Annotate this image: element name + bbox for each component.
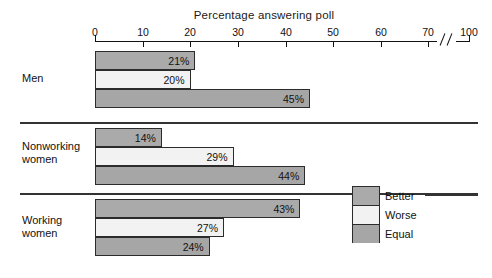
axis-tick-label: 40 [280, 26, 292, 38]
bar-value-label: 44% [278, 170, 299, 182]
category-label: Working women [22, 214, 62, 240]
legend [352, 186, 380, 243]
legend-swatch [353, 187, 379, 206]
axis-tick [286, 41, 287, 47]
bar-value-label: 43% [273, 203, 294, 215]
axis-tick [428, 41, 429, 47]
bar: 43% [95, 199, 300, 218]
bar: 44% [95, 166, 305, 185]
bar: 14% [95, 128, 162, 147]
axis-tick-label: 60 [375, 26, 387, 38]
bar-value-label: 20% [164, 74, 185, 86]
chart-title: Percentage answering poll [0, 9, 492, 21]
axis-tick-label: 30 [232, 26, 244, 38]
axis-tick-label: 100 [460, 26, 478, 38]
bar: 45% [95, 89, 310, 108]
bar-value-label: 21% [168, 55, 189, 67]
legend-swatch [353, 205, 379, 224]
axis-tick-label: 0 [92, 26, 98, 38]
bar: 29% [95, 147, 234, 166]
legend-connector-rule [425, 194, 478, 196]
axis-tick-label: 20 [184, 26, 196, 38]
axis-tick-label: 10 [137, 26, 149, 38]
axis-tick-label: 50 [327, 26, 339, 38]
bar: 27% [95, 218, 224, 237]
bar-value-label: 14% [135, 132, 156, 144]
axis-tick [238, 41, 239, 47]
bar-value-label: 24% [183, 241, 204, 253]
axis-tick [143, 41, 144, 47]
bar: 24% [95, 237, 210, 256]
axis-tick [333, 41, 334, 47]
category-label: Men [22, 72, 43, 85]
axis-tick-label: 70 [422, 26, 434, 38]
legend-label: Worse [385, 209, 417, 221]
axis-tick [190, 41, 191, 47]
legend-label: Better [385, 190, 414, 202]
bar-value-label: 45% [283, 93, 304, 105]
bar: 20% [95, 70, 191, 89]
group-separator-rule [20, 122, 478, 124]
x-axis-line [95, 41, 470, 42]
legend-swatch [353, 224, 379, 243]
bar-value-label: 29% [207, 151, 228, 163]
bar-chart: Percentage answering poll 01020304050607… [0, 0, 492, 278]
category-label: Nonworking women [22, 140, 80, 166]
bar: 21% [95, 51, 195, 70]
axis-tick [381, 41, 382, 47]
legend-label: Equal [385, 228, 413, 240]
bar-value-label: 27% [197, 222, 218, 234]
